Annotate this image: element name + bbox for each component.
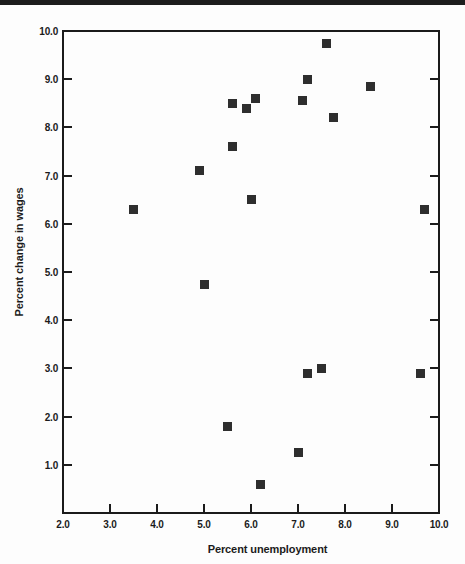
data-point-marker xyxy=(329,113,338,122)
x-axis-tick xyxy=(156,504,158,512)
y-axis-tick-left xyxy=(64,223,72,225)
y-tick-label: 5.0 xyxy=(28,267,58,278)
data-point-marker xyxy=(228,99,237,108)
data-point-marker xyxy=(256,480,265,489)
y-axis-tick-right xyxy=(430,223,438,225)
y-axis-tick-right xyxy=(430,78,438,80)
y-axis-title: Percent change in wages xyxy=(13,167,25,337)
y-axis-tick-left xyxy=(64,319,72,321)
data-point-marker xyxy=(322,39,331,48)
y-tick-label: 2.0 xyxy=(28,412,58,423)
x-tick-label: 7.0 xyxy=(284,519,312,530)
x-tick-label: 10.0 xyxy=(425,519,453,530)
x-tick-label: 4.0 xyxy=(143,519,171,530)
top-rule-bar xyxy=(0,0,465,5)
x-tick-label: 8.0 xyxy=(331,519,359,530)
x-tick-label: 3.0 xyxy=(96,519,124,530)
data-point-marker xyxy=(317,364,326,373)
x-axis-tick xyxy=(297,504,299,512)
y-tick-label: 10.0 xyxy=(28,26,58,37)
y-axis-tick-right xyxy=(430,464,438,466)
data-point-marker xyxy=(303,75,312,84)
y-axis-tick-right xyxy=(430,126,438,128)
data-point-marker xyxy=(195,166,204,175)
x-axis-tick xyxy=(391,504,393,512)
data-point-marker xyxy=(200,280,209,289)
x-tick-label: 2.0 xyxy=(49,519,77,530)
data-point-marker xyxy=(366,82,375,91)
y-axis-tick-right xyxy=(430,175,438,177)
y-axis-tick-right xyxy=(430,367,438,369)
data-point-marker xyxy=(247,195,256,204)
x-axis-tick xyxy=(344,504,346,512)
x-axis-tick xyxy=(250,504,252,512)
y-axis-tick-left xyxy=(64,78,72,80)
y-axis-tick-left xyxy=(64,175,72,177)
y-tick-label: 6.0 xyxy=(28,219,58,230)
x-axis-title: Percent unemployment xyxy=(160,543,375,555)
data-point-marker xyxy=(294,448,303,457)
y-axis-tick-left xyxy=(64,126,72,128)
data-point-marker xyxy=(303,369,312,378)
x-tick-label: 9.0 xyxy=(378,519,406,530)
data-point-marker xyxy=(420,205,429,214)
y-axis-tick-right xyxy=(430,271,438,273)
data-point-marker xyxy=(129,205,138,214)
y-tick-label: 1.0 xyxy=(28,460,58,471)
data-point-marker xyxy=(223,422,232,431)
y-axis-tick-left xyxy=(64,367,72,369)
scatter-chart-figure: Percent unemployment Percent change in w… xyxy=(0,0,465,564)
y-axis-tick-left xyxy=(64,271,72,273)
y-axis-tick-right xyxy=(430,416,438,418)
x-axis-tick xyxy=(203,504,205,512)
data-point-marker xyxy=(416,369,425,378)
y-tick-label: 7.0 xyxy=(28,171,58,182)
y-tick-label: 9.0 xyxy=(28,74,58,85)
data-point-marker xyxy=(228,142,237,151)
y-axis-tick-right xyxy=(430,319,438,321)
y-tick-label: 8.0 xyxy=(28,122,58,133)
data-point-marker xyxy=(242,104,251,113)
y-tick-label: 4.0 xyxy=(28,315,58,326)
y-axis-tick-left xyxy=(64,464,72,466)
x-tick-label: 5.0 xyxy=(190,519,218,530)
y-axis-tick-left xyxy=(64,416,72,418)
data-point-marker xyxy=(251,94,260,103)
y-tick-label: 3.0 xyxy=(28,363,58,374)
x-tick-label: 6.0 xyxy=(237,519,265,530)
data-point-marker xyxy=(298,96,307,105)
x-axis-tick xyxy=(109,504,111,512)
